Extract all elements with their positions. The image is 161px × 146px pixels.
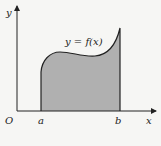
a-label: a <box>38 115 44 126</box>
x-axis-label: x <box>146 115 152 126</box>
y-axis-label: y <box>5 7 12 18</box>
area-under-curve-diagram: y x O a b y = f(x) <box>0 0 161 146</box>
origin-label: O <box>5 115 13 126</box>
curve-label: y = f(x) <box>64 36 103 47</box>
b-label: b <box>115 115 121 126</box>
